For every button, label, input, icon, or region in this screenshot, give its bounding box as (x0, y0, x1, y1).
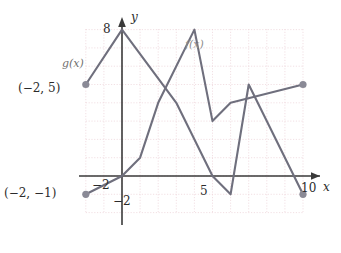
grid-group (86, 29, 303, 213)
x-tick-label-neg2: −2 (92, 178, 110, 192)
curve-label-f: f(x) (185, 38, 204, 51)
x-axis-label: x (323, 180, 330, 194)
graph-figure: g(x) f(x) (−2, 5) (−2, −1) 8 −2 −2 5 10 … (0, 0, 341, 253)
graph-canvas (0, 0, 341, 253)
x-tick-label-10: 10 (301, 181, 316, 195)
endpoint-dot-g-start (82, 81, 89, 88)
x-axis-arrowhead (311, 172, 320, 180)
curve-label-g: g(x) (62, 57, 84, 70)
endpoint-dot-f-end (299, 81, 306, 88)
annotation-point-f-start: (−2, −1) (4, 186, 56, 200)
y-tick-label-neg2: −2 (113, 194, 131, 208)
y-tick-label-8: 8 (103, 22, 111, 36)
endpoint-dot-f-start (82, 191, 89, 198)
x-tick-label-5: 5 (200, 184, 208, 198)
y-axis-arrowhead (118, 17, 126, 27)
annotation-point-g-start: (−2, 5) (18, 81, 60, 95)
y-axis-label: y (131, 10, 138, 24)
